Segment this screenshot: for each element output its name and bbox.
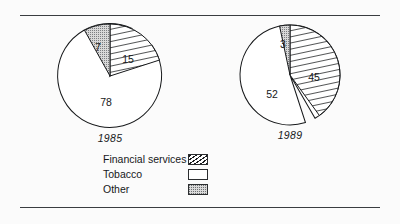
pie-1989-year-label: 1989 [238,129,342,141]
legend-item-tobacco: Tobacco [103,167,208,182]
legend-label-tobacco: Tobacco [103,167,188,182]
slice-1985-other-value: 7 [95,41,101,53]
chart-legend: Financial services Tobacco Other [103,152,208,197]
pie-1985-slices [37,3,182,148]
legend-label-other: Other [103,182,188,197]
pie-chart-figure: 7 15 78 1985 3 45 [0,0,400,224]
pie-1985-svg: 7 15 78 [56,22,164,130]
pie-chart-1989: 3 45 52 1989 [238,23,342,148]
slice-1985-tobacco-value: 78 [100,96,112,108]
bottom-rule [20,207,380,208]
top-rule [20,15,380,16]
pie-1989-svg: 3 45 52 [238,23,342,127]
slice-1989-financial-value: 45 [308,71,320,83]
slice-1989-tobacco-value: 52 [266,88,278,100]
legend-swatch-tobacco-icon [188,169,208,180]
pie-1985-year-label: 1985 [56,132,164,144]
pie-1989-slices [227,12,353,138]
legend-label-financial-services: Financial services [103,152,188,167]
legend-swatch-financial-services-icon [188,154,208,165]
slice-1989-other-value: 3 [280,38,286,50]
legend-item-financial-services: Financial services [103,152,208,167]
slice-1985-financial-value: 15 [122,53,134,65]
pie-chart-1985: 7 15 78 1985 [56,22,164,147]
legend-item-other: Other [103,182,208,197]
legend-swatch-other-icon [188,184,208,195]
